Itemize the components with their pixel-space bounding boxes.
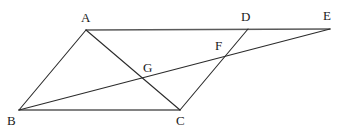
vertex-label-E: E [323, 9, 331, 22]
geometry-figure: A D E F G B C [0, 0, 338, 136]
vertex-label-G: G [143, 61, 152, 74]
vertex-label-A: A [81, 11, 90, 24]
vertex-label-D: D [241, 10, 250, 23]
segment-AC [86, 30, 180, 110]
geometry-canvas [0, 0, 338, 136]
segment-AB [19, 30, 86, 110]
vertex-label-C: C [176, 114, 185, 127]
segment-CD [180, 29, 248, 110]
segment-AE [86, 29, 330, 30]
vertex-label-B: B [7, 114, 16, 127]
vertex-label-F: F [215, 39, 222, 52]
segment-group [19, 29, 330, 110]
segment-BE [19, 29, 330, 110]
